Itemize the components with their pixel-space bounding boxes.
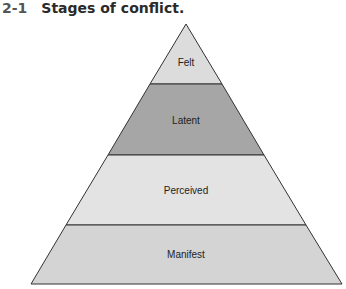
label-perceived: Perceived <box>164 185 208 196</box>
label-manifest: Manifest <box>167 249 205 260</box>
level-felt <box>150 24 222 84</box>
label-felt: Felt <box>178 57 195 68</box>
pyramid-diagram <box>0 0 346 289</box>
label-latent: Latent <box>172 115 200 126</box>
